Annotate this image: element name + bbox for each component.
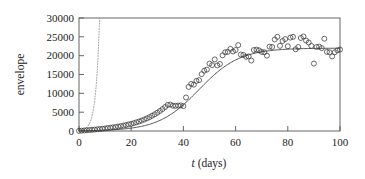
chart-figure: 0 5000 10000 15000 20000 25000 30000 0 2…	[0, 0, 365, 179]
plot-frame	[79, 18, 340, 131]
data-point-marker	[220, 53, 225, 58]
logistic-fit-curve	[79, 48, 340, 131]
data-point-marker	[285, 44, 290, 49]
data-point-marker	[322, 36, 327, 41]
y-tick-label-30000: 30000	[47, 12, 75, 24]
x-tick-label-100: 100	[332, 136, 349, 148]
chart-canvas: 0 5000 10000 15000 20000 25000 30000 0 2…	[0, 0, 365, 179]
y-tick-label-15000: 15000	[47, 68, 75, 80]
x-axis-title: t (days)	[192, 157, 227, 170]
data-point-marker	[311, 61, 316, 66]
data-point-marker	[212, 57, 217, 62]
x-tick-label-60: 60	[230, 136, 242, 148]
x-tick-label-20: 20	[126, 136, 138, 148]
y-axis-ticks	[79, 18, 84, 131]
data-point-marker	[309, 43, 314, 48]
x-tick-label-80: 80	[282, 136, 294, 148]
data-point-marker	[249, 58, 254, 63]
data-point-marker	[186, 84, 191, 89]
x-tick-label-40: 40	[178, 136, 190, 148]
data-point-marker	[277, 43, 282, 48]
y-axis-title: envelope	[14, 54, 27, 96]
y-tick-label-20000: 20000	[47, 49, 75, 61]
data-point-marker	[184, 95, 189, 100]
x-tick-label-0: 0	[76, 136, 82, 148]
y-tick-label-0: 0	[69, 125, 75, 137]
x-axis-title-units: (days)	[195, 157, 227, 170]
data-point-marker	[199, 72, 204, 77]
data-point-marker	[236, 43, 241, 48]
y-tick-label-5000: 5000	[52, 106, 75, 118]
y-tick-label-25000: 25000	[47, 31, 75, 43]
y-tick-label-10000: 10000	[47, 87, 75, 99]
data-point-marker	[264, 53, 269, 58]
